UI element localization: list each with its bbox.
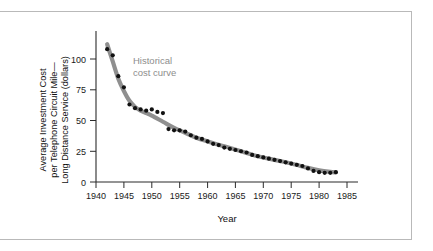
- x-tick-label: 1960: [198, 191, 218, 201]
- data-point: [139, 107, 143, 111]
- y-tick-label: 0: [81, 178, 86, 188]
- data-point: [245, 150, 249, 154]
- data-point: [334, 170, 338, 174]
- y-axis-title-line-3: Long Distance Service (dollars): [60, 56, 70, 184]
- data-point: [155, 110, 159, 114]
- data-point: [116, 74, 120, 78]
- data-point: [295, 163, 299, 167]
- data-point: [228, 147, 232, 151]
- data-point: [272, 158, 276, 162]
- annotation-historical-cost-curve: Historical cost curve: [133, 55, 176, 78]
- x-tick-label: 1975: [281, 191, 301, 201]
- data-point: [111, 53, 115, 57]
- y-axis-ticks: 100 75 50 25 0: [71, 55, 96, 188]
- data-point: [194, 136, 198, 140]
- data-point: [256, 154, 260, 158]
- x-axis-ticks: 1940 1945 1950 1955 1960 1965 1970 1975 …: [86, 182, 357, 201]
- data-point: [144, 109, 148, 113]
- x-axis-title: Year: [217, 213, 236, 224]
- y-tick-label: 50: [76, 116, 86, 126]
- y-axis-title-line-2: per Telephone Circuit Mile—: [49, 62, 59, 178]
- y-tick-label: 25: [76, 147, 86, 157]
- x-tick-label: 1970: [253, 191, 273, 201]
- data-point: [127, 102, 131, 106]
- data-point: [250, 153, 254, 157]
- data-point: [239, 149, 243, 153]
- data-point: [122, 85, 126, 89]
- x-tick-label: 1965: [225, 191, 245, 201]
- data-point: [289, 161, 293, 165]
- data-point: [323, 171, 327, 175]
- x-tick-label: 1980: [309, 191, 329, 201]
- data-point: [172, 128, 176, 132]
- y-tick-label: 100: [71, 55, 86, 65]
- y-axis-title-line-1: Average Investment Cost: [38, 68, 48, 171]
- data-point: [150, 107, 154, 111]
- data-point: [133, 106, 137, 110]
- annotation-line-2: cost curve: [133, 67, 176, 78]
- data-point: [284, 160, 288, 164]
- y-tick-label: 75: [76, 85, 86, 95]
- data-point: [105, 47, 109, 51]
- data-point: [189, 133, 193, 137]
- x-tick-label: 1945: [114, 191, 134, 201]
- data-point: [306, 166, 310, 170]
- data-point: [261, 155, 265, 159]
- data-point: [183, 129, 187, 133]
- data-point: [328, 171, 332, 175]
- chart-svg: Average Investment Cost per Telephone Ci…: [0, 0, 433, 251]
- y-axis-title: Average Investment Cost per Telephone Ci…: [38, 56, 70, 184]
- data-point: [161, 111, 165, 115]
- data-point: [311, 169, 315, 173]
- data-point: [166, 127, 170, 131]
- data-point: [178, 128, 182, 132]
- data-point: [217, 143, 221, 147]
- data-point: [267, 157, 271, 161]
- data-point: [205, 139, 209, 143]
- data-point: [200, 137, 204, 141]
- x-tick-label: 1950: [142, 191, 162, 201]
- data-point: [233, 148, 237, 152]
- data-point: [222, 145, 226, 149]
- data-point: [211, 142, 215, 146]
- data-point: [278, 159, 282, 163]
- x-tick-label: 1940: [86, 191, 106, 201]
- chart-figure: Average Investment Cost per Telephone Ci…: [0, 0, 433, 251]
- x-tick-label: 1985: [337, 191, 357, 201]
- data-point: [300, 164, 304, 168]
- annotation-line-1: Historical: [133, 55, 172, 66]
- x-tick-label: 1955: [170, 191, 190, 201]
- data-point: [317, 170, 321, 174]
